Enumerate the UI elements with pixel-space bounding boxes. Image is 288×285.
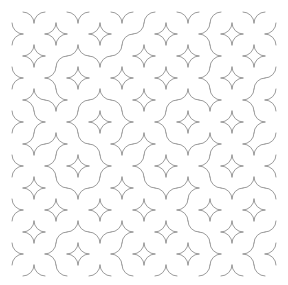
truchet-pattern-canvas xyxy=(0,0,288,285)
truchet-pattern-svg xyxy=(0,0,288,285)
pattern-background xyxy=(0,0,288,285)
